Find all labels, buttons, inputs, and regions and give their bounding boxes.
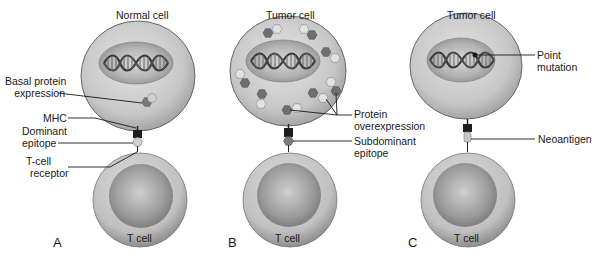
panel-b	[230, 16, 352, 247]
panel-b-tcell-label: T cell	[275, 232, 300, 244]
panel-a-tcell-label: T cell	[127, 232, 152, 244]
panel-c-tcell-label: T cell	[454, 232, 479, 244]
point-line1: Point	[537, 49, 577, 61]
dominant-epitope-label: Dominant epitope	[22, 125, 67, 149]
dominant-epitope-icon	[133, 138, 142, 147]
panel-c-letter: C	[408, 235, 417, 250]
mhc-icon	[463, 124, 472, 132]
dominant-line1: Dominant	[22, 125, 67, 137]
panel-b-title: Tumor cell	[266, 9, 315, 21]
panel-b-letter: B	[228, 235, 237, 250]
point-line2: mutation	[537, 61, 577, 73]
protein-overexpression-label: Protein overexpression	[354, 108, 425, 132]
subdominant-epitope-icon	[284, 137, 294, 146]
tumor-antigen-diagram	[0, 0, 600, 255]
t-cell-nucleus	[257, 163, 321, 227]
neoantigen-label: Neoantigen	[538, 133, 592, 145]
panel-a-letter: A	[53, 235, 62, 250]
t-cell-nucleus	[109, 164, 173, 228]
panel-a-title: Normal cell	[116, 9, 169, 21]
subdominant-line2: epitope	[354, 147, 416, 159]
tcr-line2: receptor	[26, 167, 69, 179]
mhc-icon	[133, 130, 142, 138]
subdominant-epitope-label: Subdominant epitope	[354, 135, 416, 159]
mhc-label: MHC	[43, 112, 67, 124]
neoantigen-icon	[464, 132, 471, 142]
protein-line1: Protein	[354, 108, 425, 120]
t-cell-nucleus	[433, 163, 497, 227]
panel-c	[410, 13, 535, 247]
dominant-line2: epitope	[22, 137, 67, 149]
subdominant-line1: Subdominant	[354, 135, 416, 147]
panel-a	[58, 21, 195, 247]
basal-protein-line2: expression	[5, 87, 65, 99]
protein-line2: overexpression	[354, 120, 425, 132]
mhc-icon	[284, 128, 293, 137]
basal-protein-line1: Basal protein	[5, 75, 65, 87]
tcr-line1: T-cell	[26, 155, 69, 167]
point-mutation-label: Point mutation	[537, 49, 577, 73]
tcell-receptor-label: T-cell receptor	[26, 155, 69, 179]
basal-protein-label: Basal protein expression	[5, 75, 65, 99]
panel-c-title: Tumor cell	[447, 9, 496, 21]
